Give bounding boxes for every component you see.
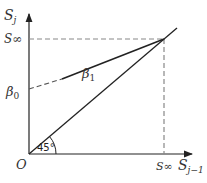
y-axis-label: Sj xyxy=(4,7,17,25)
angle-label: 45° xyxy=(37,142,55,153)
beta-line-dashed xyxy=(29,79,62,89)
diagram-canvas: Sj S∞ β0 β1 O 45° S∞ Sj−1 xyxy=(0,0,207,183)
x-axis-label: Sj−1 xyxy=(178,157,204,175)
origin-label: O xyxy=(16,157,27,172)
beta-line xyxy=(62,39,164,79)
s-inf-x-label: S∞ xyxy=(156,160,173,173)
beta1-label: β1 xyxy=(81,66,95,83)
diagonal-45-line xyxy=(29,28,177,154)
beta0-label: β0 xyxy=(5,84,20,101)
s-inf-y-label: S∞ xyxy=(4,32,22,46)
